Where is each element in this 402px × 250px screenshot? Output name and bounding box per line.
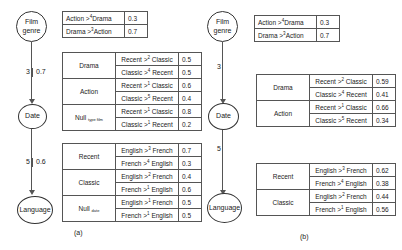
edge-separator [32,158,33,167]
table-row: ClassicEnglish >2 French0.44 [257,190,396,203]
edge-date-language-b [222,130,223,193]
table-row: Null type filmRecent >1 Classic0.8 [63,105,202,118]
edge-separator [32,68,33,77]
genre-cpt-a: Action >4Drama0.3 Drama >3Action0.7 [62,11,148,38]
caption-b: (b) [300,233,309,240]
date-cpt-a: DramaRecent >2 Classic0.5 Classic >4 Rec… [62,52,202,131]
table-row: RecentEnglish >3 French0.7 [63,144,202,157]
edge-weight: 5 [26,158,30,165]
table-row: ActionRecent >1 Classic0.6 [63,79,202,92]
node-label: Film genre [208,18,237,34]
table-row: Null dateEnglish >1 French0.5 [63,196,202,209]
node-label: Language [19,206,50,214]
node-language-a: Language [17,196,53,224]
table-row: Action >4Drama0.3 [63,12,148,25]
edge-probability: 0.6 [36,158,46,165]
table-row: DramaRecent >2 Classic0.5 [63,53,202,66]
node-label: Language [209,204,240,212]
caption-a: (a) [74,229,83,236]
node-date-b: Date [208,103,239,130]
table-row: Drama >3Action0.7 [63,25,148,38]
node-label: Date [216,112,231,120]
table-row: RecentEnglish >3 French0.62 [257,164,396,177]
table-row: DramaRecent >2 Classic0.59 [257,75,396,88]
table-row: Action >4Drama0.3 [255,16,340,29]
table-row: ClassicEnglish >2 French0.4 [63,170,202,183]
edge-weight: 3 [26,68,30,75]
table-row: ActionRecent >1 Classic0.66 [257,101,396,114]
node-language-b: Language [207,193,242,223]
language-cpt-b: RecentEnglish >3 French0.62 French >4 En… [256,163,396,216]
genre-cpt-b: Action >4Drama0.3 Drama >3Action0.7 [254,15,340,42]
node-film-genre-a: Film genre [16,11,47,42]
edge-probability: 0.7 [36,68,46,75]
edge-genre-date-b [222,42,223,102]
node-date-a: Date [18,104,47,129]
table-row: Drama >3Action0.7 [255,29,340,42]
language-cpt-a: RecentEnglish >3 French0.7 French >4 Eng… [62,143,202,222]
edge-weight: 5 [217,145,221,152]
node-label: Date [25,112,40,120]
node-label: Film genre [17,18,46,34]
arrow-head-icon [29,190,35,195]
edge-weight: 3 [217,63,221,70]
date-cpt-b: DramaRecent >2 Classic0.59 Classic >4 Re… [256,74,396,127]
node-film-genre-b: Film genre [207,11,238,42]
